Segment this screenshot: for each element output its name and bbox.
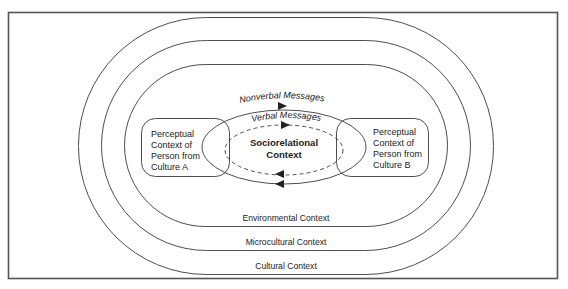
person-b-label-line3: Person from <box>373 149 422 159</box>
cultural-context-label: Cultural Context <box>255 261 317 271</box>
person-a-label-line1: Perceptual <box>151 129 194 139</box>
person-b-label-line1: Perceptual <box>373 127 416 137</box>
person-b-label-line4: Culture B <box>373 160 411 170</box>
arrow-left-icon <box>275 180 284 188</box>
microcultural-context-label: Microcultural Context <box>246 237 327 247</box>
sociorelational-context-label-line1: Sociorelational <box>250 137 318 148</box>
communication-context-diagram: Nonverbal Messages Verbal Messages Socio… <box>0 0 568 289</box>
arrow-right-icon <box>281 121 290 129</box>
person-a-label-line4: Culture A <box>151 162 188 172</box>
person-a-label-line3: Person from <box>151 151 200 161</box>
person-b-label-line2: Context of <box>373 138 415 148</box>
verbal-messages-label: Verbal Messages <box>250 110 322 124</box>
sociorelational-context-label-line2: Context <box>266 149 302 160</box>
arrow-right-icon <box>278 102 287 110</box>
person-a-label-line2: Context of <box>151 140 193 150</box>
arrow-left-icon <box>275 170 284 178</box>
nonverbal-messages-label: Nonverbal Messages <box>238 90 325 105</box>
environmental-context-label: Environmental Context <box>243 213 331 223</box>
